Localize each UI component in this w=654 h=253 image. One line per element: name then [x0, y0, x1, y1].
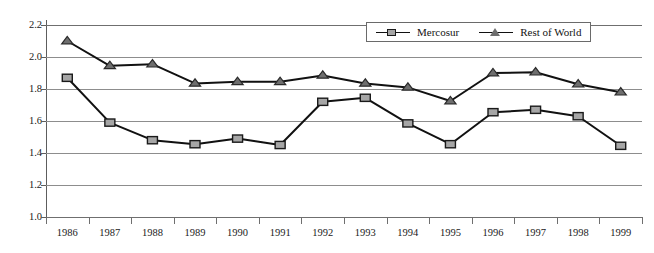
triangle-marker-icon [317, 71, 328, 78]
x-tick-label-1993: 1993 [344, 228, 387, 239]
square-marker-icon [531, 106, 541, 113]
x-tick-label-1998: 1998 [557, 228, 600, 239]
y-tick-label: 2.0 [8, 52, 42, 63]
x-tick-mark [46, 217, 47, 224]
x-tick-mark [557, 217, 558, 224]
x-tick-mark [131, 217, 132, 224]
square-marker-icon [62, 74, 72, 81]
x-tick-label-1992: 1992 [301, 228, 344, 239]
x-tick-label-1987: 1987 [89, 228, 132, 239]
square-marker-icon [105, 119, 115, 126]
x-tick-label-1988: 1988 [131, 228, 174, 239]
x-tick-mark [301, 217, 302, 224]
y-tick-label: 2.2 [8, 20, 42, 31]
x-tick-mark [429, 217, 430, 224]
square-marker-icon [275, 141, 285, 148]
x-tick-mark [174, 217, 175, 224]
y-axis: 1.01.21.41.61.82.02.2 [0, 0, 42, 253]
x-tick-label-1991: 1991 [259, 228, 302, 239]
y-tick-label: 1.0 [8, 212, 42, 223]
legend-entry-rest-of-world[interactable]: Rest of World [479, 26, 581, 38]
legend-label: Mercosur [417, 27, 459, 38]
y-tick-label: 1.6 [8, 116, 42, 127]
x-tick-label-1996: 1996 [472, 228, 515, 239]
x-tick-mark [514, 217, 515, 224]
square-marker-icon [573, 113, 583, 120]
x-tick-mark [344, 217, 345, 224]
square-marker-icon [318, 98, 328, 105]
square-marker-icon [445, 141, 455, 148]
legend-entry-mercosur[interactable]: Mercosur [376, 26, 459, 38]
y-tick-label: 1.2 [8, 180, 42, 191]
x-tick-label-1990: 1990 [216, 228, 259, 239]
x-tick-label-1997: 1997 [514, 228, 557, 239]
x-tick-mark [599, 217, 600, 224]
chart-legend: MercosurRest of World [366, 22, 591, 42]
y-tick-label: 1.4 [8, 148, 42, 159]
x-tick-mark [472, 217, 473, 224]
plot-area [46, 25, 642, 217]
x-axis: 1986198719881989199019911992199319941995… [46, 217, 642, 253]
x-tick-mark [387, 217, 388, 224]
x-tick-label-1986: 1986 [46, 228, 89, 239]
legend-label: Rest of World [520, 27, 581, 38]
square-marker-icon [360, 94, 370, 101]
x-tick-mark [259, 217, 260, 224]
series-layer [46, 25, 642, 217]
square-marker-icon [190, 141, 200, 148]
square-marker-icon [616, 142, 626, 149]
x-tick-label-1994: 1994 [387, 228, 430, 239]
x-tick-mark [642, 217, 643, 224]
y-tick-label: 1.8 [8, 84, 42, 95]
square-marker-icon [233, 135, 243, 142]
x-tick-label-1995: 1995 [429, 228, 472, 239]
square-marker-icon [147, 137, 157, 144]
series-rest-of-world [62, 36, 627, 103]
x-tick-mark [216, 217, 217, 224]
triangle-marker-icon [479, 26, 513, 38]
x-tick-label-1989: 1989 [174, 228, 217, 239]
square-marker-icon [376, 26, 410, 38]
series-mercosur [62, 74, 625, 149]
x-tick-label-1999: 1999 [599, 228, 642, 239]
triangle-marker-icon [62, 36, 73, 43]
triangle-marker-icon [147, 60, 158, 67]
square-marker-icon [403, 120, 413, 127]
line-chart: 1.01.21.41.61.82.02.2 198619871988198919… [0, 0, 654, 253]
x-tick-mark [89, 217, 90, 224]
square-marker-icon [488, 109, 498, 116]
